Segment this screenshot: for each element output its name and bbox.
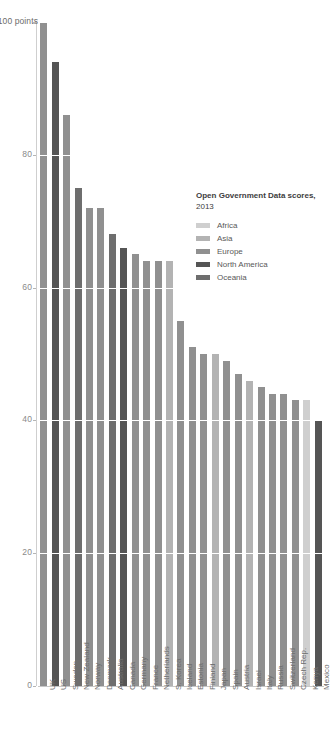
x-tick-label: Estonia [196,663,205,690]
x-axis-tick-labels: UKUSSwedenNew ZealandNorwayDenmarkAustra… [38,688,324,752]
y-axis-line [36,22,37,686]
x-label-slot: Finland [198,688,209,752]
legend-swatch-icon [196,249,210,254]
x-label-slot: Estonia [187,688,198,752]
x-tick-label: Finland [207,663,216,690]
legend-item: Oceania [196,271,320,283]
bar-slot [84,22,95,686]
bar [280,394,287,686]
bar-slot [152,22,163,686]
x-tick-label: Australia [116,658,125,690]
x-tick-label: Czech Rep. [299,648,308,690]
x-tick-label: Canada [127,662,136,690]
x-tick-label: Switzerland [288,648,297,690]
x-label-slot: Canada [118,688,129,752]
bar [132,254,139,686]
bar-slot [38,22,49,686]
x-tick-label: S. Korea [173,658,182,690]
bar [303,400,310,686]
legend-title-main: Open Government Data scores, [196,191,316,200]
x-label-slot: Norway [84,688,95,752]
bar-slot [221,22,232,686]
bar-slot [278,22,289,686]
x-tick-label: Mexico [322,664,331,690]
x-label-slot: Germany [130,688,141,752]
legend-item: Asia [196,232,320,244]
legend-title-year: 2013 [196,202,214,211]
bar-slot [232,22,243,686]
x-tick-label: Norway [93,663,102,690]
legend-label: Asia [217,234,233,243]
bar [155,261,162,686]
bar [177,321,184,686]
y-tick-mark-40 [33,420,36,421]
legend-label: Africa [217,221,237,230]
bar [200,354,207,686]
x-label-slot: Japan [210,688,221,752]
bar-slot [187,22,198,686]
x-label-slot: Iceland [175,688,186,752]
bar-slot [210,22,221,686]
gridline-80 [38,155,324,156]
x-label-slot: Australia [107,688,118,752]
legend-label: North America [217,260,268,269]
bar-slot [198,22,209,686]
x-tick-label: Austria [242,665,251,690]
bar-slot [141,22,152,686]
y-tick-label-100: 100 points [0,16,38,26]
bar-slot [244,22,255,686]
bar [97,208,104,686]
bar [120,248,127,686]
bar [143,261,150,686]
x-label-slot: US [49,688,60,752]
legend-label: Oceania [217,273,247,282]
x-tick-label: Kenya [310,667,319,690]
legend-items: AfricaAsiaEuropeNorth AmericaOceania [196,219,320,283]
bar [269,394,276,686]
x-label-slot: Mexico [313,688,324,752]
legend-swatch-icon [196,223,210,228]
x-tick-label: Iceland [185,664,194,690]
bar [63,115,70,686]
gridline-100 [38,22,324,23]
plot-area [38,22,324,686]
y-tick-label-20: 20 [2,547,32,557]
bar-slot [130,22,141,686]
bar [109,234,116,686]
bar-slot [255,22,266,686]
x-tick-label: Denmark [105,657,114,690]
x-label-slot: Russia [267,688,278,752]
bar [86,208,93,686]
gridline-60 [38,288,324,289]
x-tick-label: New Zealand [82,642,91,690]
bar-slot [95,22,106,686]
y-tick-mark-0 [33,686,36,687]
bar-slot [72,22,83,686]
bar [258,387,265,686]
bar-series [38,22,324,686]
chart-legend: Open Government Data scores, 2013 Africa… [196,190,320,284]
x-label-slot: Switzerland [278,688,289,752]
bar [75,188,82,686]
gridline-20 [38,553,324,554]
y-tick-label-60: 60 [2,282,32,292]
bar [40,22,47,686]
bar [246,381,253,686]
x-label-slot: UK [38,688,49,752]
gridline-40 [38,420,324,421]
y-tick-mark-100 [33,22,36,23]
bar-slot [61,22,72,686]
x-label-slot: Austria [232,688,243,752]
bar-slot [118,22,129,686]
bar-slot [313,22,324,686]
x-label-slot: Denmark [95,688,106,752]
x-tick-label: Germany [139,657,148,690]
x-label-slot: New Zealand [72,688,83,752]
legend-item: North America [196,258,320,270]
x-label-slot: Netherlands [152,688,163,752]
x-label-slot: Spain [221,688,232,752]
x-label-slot: Kenya [301,688,312,752]
x-label-slot: Italy [255,688,266,752]
y-tick-mark-80 [33,155,36,156]
bar-slot [49,22,60,686]
